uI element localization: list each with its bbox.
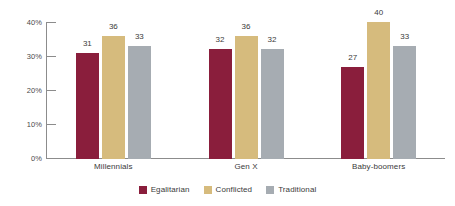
bar-gen-x-traditional[interactable]: 32 [261,49,284,159]
legend-label: Conflicted [216,186,253,194]
bar-value-label: 32 [216,36,225,44]
x-axis-category-labels: Millennials Gen X Baby-boomers [47,163,445,171]
bar-value-label: 31 [83,40,92,48]
y-axis-label-30: 30% [8,53,42,61]
bar-group-baby-boomers: 27 40 33 [312,22,445,159]
bar-value-label: 33 [135,33,144,41]
bar-slot: 36 [235,22,258,159]
legend-item-traditional[interactable]: Traditional [266,186,316,194]
bar-gen-x-egalitarian[interactable]: 32 [209,49,232,159]
y-axis-label-10: 10% [8,121,42,129]
x-axis-label-millennials: Millennials [47,163,180,171]
bar-slot: 33 [393,22,416,159]
bar-chart: 0% 10% 20% 30% 40% 31 36 33 [0,0,455,206]
x-axis-label-gen-x: Gen X [180,163,313,171]
bar-millennials-conflicted[interactable]: 36 [102,36,125,159]
legend-label: Egalitarian [151,186,190,194]
bar-group-millennials: 31 36 33 [47,22,180,159]
y-axis-label-20: 20% [8,87,42,95]
bar-slot: 33 [128,22,151,159]
bar-baby-boomers-egalitarian[interactable]: 27 [341,67,364,159]
legend-item-egalitarian[interactable]: Egalitarian [139,186,190,194]
y-axis-label-0: 0% [8,155,42,163]
bar-millennials-traditional[interactable]: 33 [128,46,151,159]
x-axis-label-baby-boomers: Baby-boomers [312,163,445,171]
bar-value-label: 40 [374,9,383,17]
bar-slot: 40 [367,22,390,159]
bar-value-label: 36 [242,23,251,31]
bar-slot: 32 [209,22,232,159]
bar-group-gen-x: 32 36 32 [180,22,313,159]
chart-legend: Egalitarian Conflicted Traditional [0,186,455,194]
y-axis-label-40: 40% [8,19,42,27]
bar-groups: 31 36 33 32 36 [47,22,445,159]
bar-slot: 27 [341,22,364,159]
bar-baby-boomers-conflicted[interactable]: 40 [367,22,390,159]
bar-slot: 31 [76,22,99,159]
legend-swatch-icon [139,186,147,194]
legend-swatch-icon [266,186,274,194]
bar-millennials-egalitarian[interactable]: 31 [76,53,99,159]
bar-value-label: 36 [109,23,118,31]
bar-value-label: 32 [268,36,277,44]
legend-item-conflicted[interactable]: Conflicted [204,186,253,194]
legend-label: Traditional [278,186,316,194]
bar-slot: 36 [102,22,125,159]
bar-baby-boomers-traditional[interactable]: 33 [393,46,416,159]
bar-value-label: 27 [348,54,357,62]
bar-gen-x-conflicted[interactable]: 36 [235,36,258,159]
bar-value-label: 33 [400,33,409,41]
bar-slot: 32 [261,22,284,159]
legend-swatch-icon [204,186,212,194]
